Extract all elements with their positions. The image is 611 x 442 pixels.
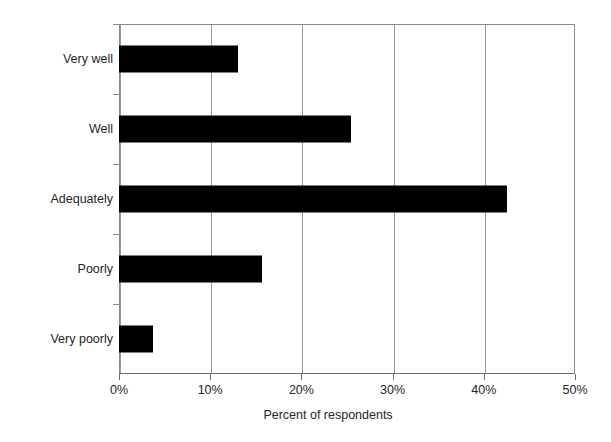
ytick-text: Adequately — [50, 192, 113, 206]
ytick-mark-0 — [113, 24, 119, 25]
xtick-label-50: 50% — [562, 383, 587, 397]
xtick-mark-0 — [119, 374, 120, 380]
ytick-text: Very well — [63, 52, 113, 66]
xtick-mark-30 — [393, 374, 394, 380]
ytick-label-adequately: Adequately — [0, 164, 113, 234]
category-axis-labels: Very well Well Adequately Poorly Very po… — [0, 24, 113, 374]
xtick-mark-20 — [301, 374, 302, 380]
ytick-mark-2 — [113, 164, 119, 165]
bar-very-well — [119, 46, 238, 73]
xtick-label-0: 0% — [110, 383, 128, 397]
ytick-label-well: Well — [0, 94, 113, 164]
x-axis-title-text: Percent of respondents — [263, 408, 392, 422]
ytick-text: Well — [89, 122, 113, 136]
bar-adequately — [119, 186, 507, 213]
ytick-label-poorly: Poorly — [0, 234, 113, 304]
ytick-mark-1 — [113, 94, 119, 95]
xtick-mark-10 — [210, 374, 211, 380]
xtick-label-10: 10% — [198, 383, 223, 397]
xtick-label-40: 40% — [471, 383, 496, 397]
ytick-text: Poorly — [78, 262, 113, 276]
bar-very-poorly — [119, 326, 153, 353]
bar-band-very-poorly — [119, 304, 575, 374]
bars-layer — [119, 24, 575, 374]
ytick-mark-4 — [113, 304, 119, 305]
bar-band-very-well — [119, 24, 575, 94]
bar-chart: Very well Well Adequately Poorly Very po… — [0, 0, 611, 442]
ytick-label-very-poorly: Very poorly — [0, 304, 113, 374]
ytick-label-very-well: Very well — [0, 24, 113, 94]
xtick-label-30: 30% — [380, 383, 405, 397]
xtick-label-20: 20% — [289, 383, 314, 397]
xtick-mark-40 — [484, 374, 485, 380]
x-axis-title: Percent of respondents — [0, 408, 611, 422]
ytick-text: Very poorly — [50, 332, 113, 346]
bar-well — [119, 116, 351, 143]
xtick-mark-50 — [575, 374, 576, 380]
bar-poorly — [119, 256, 262, 283]
bar-band-well — [119, 94, 575, 164]
ytick-mark-3 — [113, 234, 119, 235]
bar-band-poorly — [119, 234, 575, 304]
bar-band-adequately — [119, 164, 575, 234]
